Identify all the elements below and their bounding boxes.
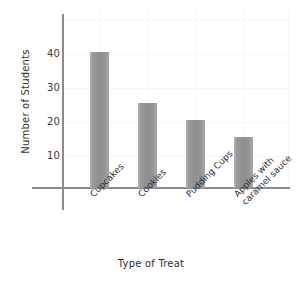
x-axis-title: Type of Treat [0,258,302,269]
y-tick-label: 30 [34,82,60,93]
bar-cupcakes[interactable] [90,52,109,188]
y-tick-label: 10 [34,150,60,161]
bar-chart: 40 30 20 10 Cupcakes Cookies Pudding Cup… [0,0,302,281]
y-axis-title: Number of Students [20,27,31,177]
y-tick-label: 20 [34,116,60,127]
y-tick-label: 40 [34,48,60,59]
bars-container [62,18,290,188]
y-tick-labels: 40 30 20 10 [30,0,60,281]
